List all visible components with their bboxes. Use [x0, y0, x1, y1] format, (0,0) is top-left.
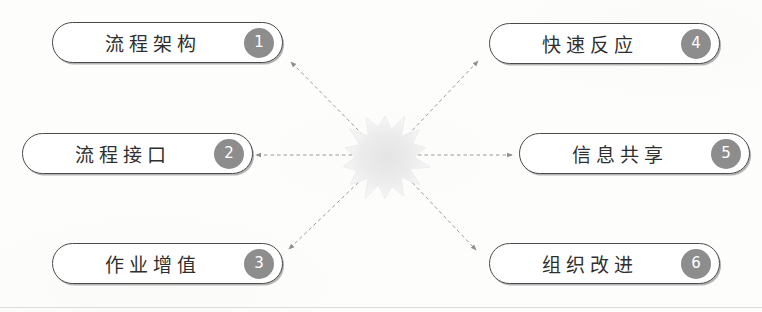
- node-4-badge: 4: [681, 29, 711, 59]
- node-4-label: 快速反应: [537, 30, 638, 57]
- connector-to-node-1: [291, 62, 363, 135]
- node-2-badge: 2: [214, 139, 244, 169]
- node-6[interactable]: 组织改进 6: [489, 243, 720, 284]
- connector-to-node-4: [408, 61, 478, 135]
- connector-to-node-3: [289, 178, 363, 249]
- node-2-label: 流程接口: [70, 140, 171, 167]
- node-1-badge: 1: [244, 28, 274, 58]
- node-4[interactable]: 快速反应 4: [489, 23, 720, 64]
- node-6-label: 组织改进: [537, 250, 638, 277]
- node-6-badge: 6: [681, 249, 711, 279]
- node-5-badge: 5: [711, 139, 741, 169]
- node-1-label: 流程架构: [100, 29, 201, 56]
- node-1[interactable]: 流程架构 1: [52, 22, 283, 63]
- connector-to-node-6: [408, 178, 476, 250]
- node-3-label: 作业增值: [100, 250, 201, 277]
- node-3[interactable]: 作业增值 3: [52, 243, 283, 284]
- node-2[interactable]: 流程接口 2: [22, 133, 253, 174]
- node-5-label: 信息共享: [567, 140, 668, 167]
- diagram-canvas: 流程架构 1 流程接口 2 作业增值 3 快速反应 4 信息共享 5 组织改进 …: [0, 0, 762, 312]
- node-3-badge: 3: [244, 249, 274, 279]
- node-5[interactable]: 信息共享 5: [519, 133, 750, 174]
